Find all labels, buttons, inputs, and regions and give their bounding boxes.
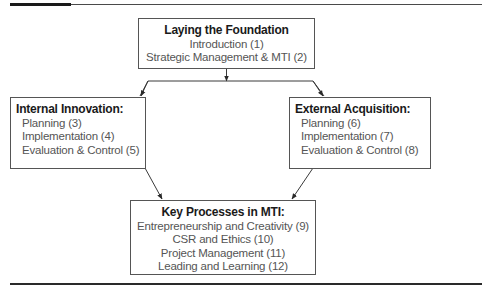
box-item: CSR and Ethics (10) <box>131 233 315 247</box>
box-title: External Acquisition: <box>295 103 430 117</box>
box-item: Strategic Management & MTI (2) <box>139 51 314 65</box>
box-item: Entrepreneurship and Creativity (9) <box>131 220 315 234</box>
box-key-processes: Key Processes in MTI: Entrepreneurship a… <box>130 200 316 275</box>
box-title: Key Processes in MTI: <box>131 206 315 220</box>
box-title: Internal Innovation: <box>16 103 145 117</box>
box-item: Implementation (7) <box>295 130 430 144</box>
box-external-acquisition: External Acquisition: Planning (6) Imple… <box>289 97 431 169</box>
box-item: Introduction (1) <box>139 38 314 52</box>
box-laying-the-foundation: Laying the Foundation Introduction (1) S… <box>138 18 315 69</box>
box-item: Evaluation & Control (5) <box>16 144 145 158</box>
box-item: Leading and Learning (12) <box>131 260 315 274</box>
arrow-right-to-bottom <box>292 168 313 199</box>
box-item: Planning (3) <box>16 117 145 131</box>
box-item: Planning (6) <box>295 117 430 131</box>
box-item: Evaluation & Control (8) <box>295 144 430 158</box>
box-title: Laying the Foundation <box>139 24 314 38</box>
arrow-to-right-box <box>313 81 323 96</box>
box-item: Project Management (11) <box>131 247 315 261</box>
split-line <box>140 81 324 96</box>
box-item: Implementation (4) <box>16 130 145 144</box>
arrow-left-to-bottom <box>145 168 162 199</box>
arrow-to-left-box <box>141 81 148 96</box>
box-internal-innovation: Internal Innovation: Planning (3) Implem… <box>10 97 146 169</box>
bottom-rule <box>10 283 482 285</box>
